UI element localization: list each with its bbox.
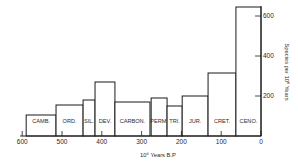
period-label: CENO.	[240, 118, 258, 124]
y-tick-label: 600	[263, 12, 274, 19]
x-axis-label: 10⁶ Years B.P	[140, 152, 176, 158]
period-label: TRI.	[169, 118, 180, 124]
period-label: DEV.	[99, 118, 112, 124]
period-label: CRET.	[214, 118, 231, 124]
species-diversity-chart: CAMB.ORD.SIL.DEV.CARBON.PERM.TRI.JUR.CRE…	[0, 0, 298, 166]
bar-jur: JUR.	[182, 96, 208, 136]
x-tick-label: 300	[136, 138, 147, 145]
bar-dev: DEV.	[95, 82, 115, 136]
bar-tri: TRI.	[167, 106, 182, 136]
period-label: SIL.	[84, 118, 94, 124]
bar-perm: PERM.	[150, 98, 168, 136]
x-tick-label: 600	[17, 138, 28, 145]
bar-sil: SIL.	[83, 100, 95, 136]
y-tick-label: 400	[263, 52, 274, 59]
x-tick-label: 0	[259, 138, 263, 145]
period-label: PERM.	[150, 118, 168, 124]
bar-ceno: CENO.	[236, 7, 261, 136]
bar-carbon: CARBON.	[115, 102, 150, 136]
period-label: JUR.	[189, 118, 202, 124]
period-label: CARBON.	[120, 118, 146, 124]
x-tick-label: 400	[96, 138, 107, 145]
bar-cret: CRET.	[208, 73, 236, 136]
period-label: CAMB.	[32, 118, 50, 124]
x-tick-label: 200	[176, 138, 187, 145]
period-label: ORD.	[63, 118, 77, 124]
bar-ord: ORD.	[56, 105, 83, 136]
bars: CAMB.ORD.SIL.DEV.CARBON.PERM.TRI.JUR.CRE…	[26, 7, 261, 136]
y-tick-label: 200	[263, 92, 274, 99]
bar-camb: CAMB.	[26, 115, 56, 136]
y-axis-label: Species per 10⁶ Years	[284, 43, 290, 100]
x-tick-label: 500	[57, 138, 68, 145]
x-tick-label: 100	[216, 138, 227, 145]
